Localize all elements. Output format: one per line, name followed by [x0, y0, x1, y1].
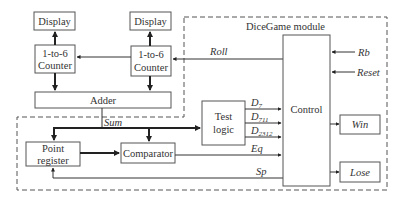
sum-signal-label: Sum: [104, 117, 123, 128]
dicegame-block-diagram: DiceGame module Display Display 1-to-6 C…: [0, 0, 407, 203]
point-register-line2: register: [37, 155, 69, 166]
module-title: DiceGame module: [246, 21, 325, 32]
roll-signal-label: Roll: [209, 46, 228, 57]
d2312-signal-label: D2312: [250, 125, 273, 138]
display-right-block: Display: [130, 12, 171, 30]
rb-signal-label: Rb: [357, 47, 370, 58]
adder-label: Adder: [90, 95, 117, 106]
reset-signal-label: Reset: [356, 67, 381, 78]
test-logic-line1: Test: [215, 111, 232, 122]
eq-signal-label: Eq: [250, 143, 263, 154]
point-register-block: Point register: [26, 142, 80, 166]
control-block: Control: [283, 35, 330, 186]
sp-signal-label: Sp: [256, 166, 267, 177]
win-output-block: Win: [340, 115, 380, 134]
lose-label: Lose: [349, 167, 370, 178]
counter-right-block: 1-to-6 Counter: [131, 46, 171, 76]
counter-left-line1: 1-to-6: [42, 48, 68, 59]
display-left-label: Display: [38, 16, 71, 27]
win-label: Win: [352, 119, 368, 130]
display-left-block: Display: [34, 12, 75, 30]
counter-left-block: 1-to-6 Counter: [35, 45, 75, 73]
counter-right-line1: 1-to-6: [138, 49, 164, 60]
test-logic-line2: logic: [213, 124, 234, 135]
lose-output-block: Lose: [340, 162, 380, 182]
point-register-line1: Point: [42, 143, 64, 154]
counter-right-line2: Counter: [134, 62, 168, 73]
d711-signal-label: D711: [250, 111, 269, 124]
display-right-label: Display: [134, 16, 167, 27]
comparator-block: Comparator: [121, 143, 175, 163]
comparator-label: Comparator: [123, 148, 174, 159]
control-label: Control: [290, 104, 322, 115]
adder-block: Adder: [35, 92, 171, 108]
counter-left-line2: Counter: [38, 60, 72, 71]
sp-signal-line: [53, 168, 283, 178]
test-logic-block: Test logic: [202, 101, 245, 145]
d7-signal-label: D7: [250, 97, 263, 110]
